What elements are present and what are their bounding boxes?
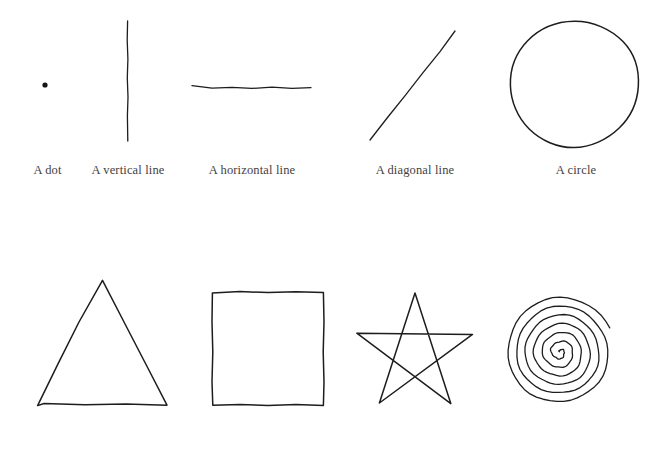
shape-cell-square: A square: [196, 262, 346, 452]
shape-cell-vertical-line: A vertical line: [84, 0, 172, 180]
diagonal-line-icon: [340, 0, 490, 160]
shape-cell-five-pointed-star: A five-pointed star: [348, 262, 488, 452]
shape-cell-circle: A circle: [496, 0, 656, 180]
shapes-sheet: A dot A vertical line A horizontal line …: [0, 0, 658, 460]
shape-cell-triangle: A triangle: [8, 262, 198, 452]
shape-caption-vertical-line: A vertical line: [84, 163, 172, 177]
spiral-icon: [488, 262, 638, 422]
shape-caption-dot: A dot: [0, 163, 95, 177]
shape-cell-dot: A dot: [0, 0, 95, 180]
horizontal-line-icon: [178, 0, 326, 160]
five-pointed-star-icon: [348, 262, 488, 422]
shape-cell-spiral: A spiral: [488, 262, 638, 452]
dot-icon: [0, 0, 95, 160]
circle-icon: [496, 0, 656, 160]
shape-cell-diagonal-line: A diagonal line: [340, 0, 490, 180]
shape-caption-circle: A circle: [496, 163, 656, 177]
square-icon: [196, 262, 346, 422]
triangle-icon: [8, 262, 198, 422]
shape-cell-horizontal-line: A horizontal line: [178, 0, 326, 180]
shape-caption-horizontal-line: A horizontal line: [178, 163, 326, 177]
vertical-line-icon: [84, 0, 172, 160]
shape-caption-diagonal-line: A diagonal line: [340, 163, 490, 177]
